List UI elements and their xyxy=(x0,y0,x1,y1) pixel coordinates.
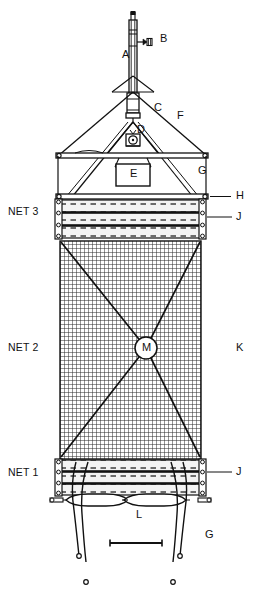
net3-section xyxy=(55,199,232,239)
label-D: D xyxy=(137,124,145,135)
diagram-svg xyxy=(0,0,256,610)
label-K: K xyxy=(236,342,244,353)
mast-assembly xyxy=(129,11,137,105)
label-A: A xyxy=(122,49,130,60)
label-J-lower: J xyxy=(236,466,242,477)
label-G-upper: G xyxy=(198,165,207,176)
label-M: M xyxy=(142,342,151,353)
label-C: C xyxy=(154,102,162,113)
mast-fitting-detail xyxy=(137,39,152,46)
top-frame-bar xyxy=(56,151,208,159)
upper-frame-bar xyxy=(56,194,231,199)
coupling-block xyxy=(126,93,140,123)
figure-canvas: A B C D E F G H J K J G L M NET 3 NET 2 … xyxy=(0,0,256,610)
scale-bar xyxy=(110,540,162,547)
label-E: E xyxy=(130,168,138,179)
label-G-lower: G xyxy=(205,529,214,540)
label-L: L xyxy=(136,509,142,520)
label-H: H xyxy=(236,190,244,201)
label-net-2: NET 2 xyxy=(8,342,39,353)
label-net-3: NET 3 xyxy=(8,206,39,217)
label-F: F xyxy=(177,110,184,121)
label-B: B xyxy=(160,33,168,44)
label-net-1: NET 1 xyxy=(8,467,39,478)
label-J-upper: J xyxy=(236,211,242,222)
